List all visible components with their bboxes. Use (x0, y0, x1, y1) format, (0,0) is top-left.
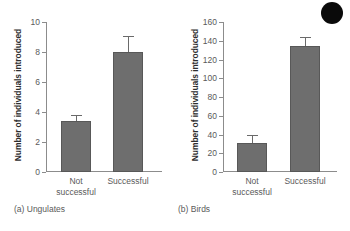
panel-caption-b: (b) Birds (178, 204, 210, 214)
y-tick-label-b-6: 120 (203, 55, 217, 65)
error-bar-a-1 (128, 37, 129, 52)
y-tick-b-0 (219, 172, 223, 173)
y-tick-a-4 (42, 52, 46, 53)
y-axis-line-a (46, 22, 47, 172)
plot-area-b: 020406080100120140160 (223, 22, 329, 172)
bar-b-1 (290, 46, 320, 172)
error-cap-a-0 (71, 115, 82, 116)
bar-b-0 (237, 143, 267, 172)
y-tick-label-b-4: 80 (208, 92, 217, 102)
y-axis-title-b: Number of individuals introduced (190, 15, 200, 175)
x-category-label-b-1: Successful (277, 176, 333, 187)
y-tick-b-4 (219, 97, 223, 98)
y-axis-title-a: Number of individuals introduced (13, 15, 23, 175)
error-bar-a-0 (76, 116, 77, 121)
y-tick-b-2 (219, 135, 223, 136)
y-tick-label-b-0: 0 (212, 167, 217, 177)
y-tick-label-a-2: 4 (35, 107, 40, 117)
y-tick-label-a-0: 0 (35, 167, 40, 177)
y-tick-label-a-5: 10 (31, 17, 40, 27)
y-tick-b-8 (219, 22, 223, 23)
y-tick-label-b-1: 20 (208, 148, 217, 158)
chart-panel-birds: Number of individuals introduced 0204060… (175, 0, 350, 231)
y-tick-a-1 (42, 142, 46, 143)
y-tick-a-0 (42, 172, 46, 173)
y-tick-b-3 (219, 116, 223, 117)
y-tick-label-b-3: 60 (208, 111, 217, 121)
x-category-label-b-0: Not successful (224, 176, 280, 198)
error-cap-b-1 (300, 37, 311, 38)
y-tick-b-6 (219, 60, 223, 61)
error-bar-b-0 (252, 136, 253, 143)
y-tick-label-b-7: 140 (203, 36, 217, 46)
y-tick-b-5 (219, 78, 223, 79)
y-tick-a-2 (42, 112, 46, 113)
y-tick-b-7 (219, 41, 223, 42)
y-tick-label-a-4: 8 (35, 47, 40, 57)
y-tick-label-b-2: 40 (208, 130, 217, 140)
figure-root: { "figure": { "artifact": "black-circle-… (0, 0, 350, 231)
error-bar-b-1 (305, 38, 306, 46)
y-tick-label-b-5: 100 (203, 73, 217, 83)
plot-area-a: 0246810 (46, 22, 154, 172)
x-category-label-a-1: Successful (100, 176, 156, 187)
error-cap-b-0 (247, 135, 258, 136)
x-category-label-a-0: Not successful (48, 176, 104, 198)
y-tick-a-3 (42, 82, 46, 83)
error-cap-a-1 (123, 36, 134, 37)
bar-a-0 (61, 121, 91, 172)
chart-panel-ungulates: Number of individuals introduced 0246810… (0, 0, 175, 231)
y-tick-label-b-8: 160 (203, 17, 217, 27)
y-tick-label-a-1: 2 (35, 137, 40, 147)
panel-caption-a: (a) Ungulates (14, 204, 65, 214)
y-tick-a-5 (42, 22, 46, 23)
y-tick-label-a-3: 6 (35, 77, 40, 87)
bar-a-1 (113, 52, 143, 172)
y-axis-line-b (223, 22, 224, 172)
y-tick-b-1 (219, 153, 223, 154)
